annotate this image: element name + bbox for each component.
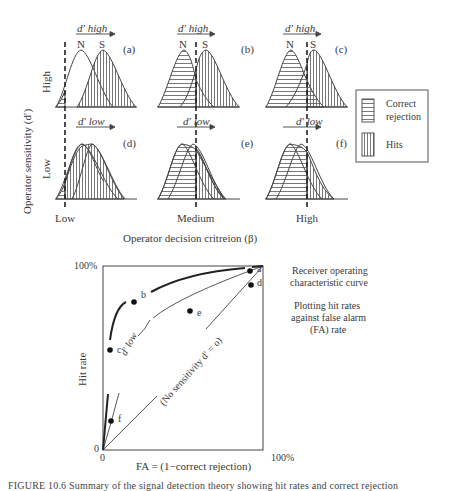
x-tick-0: 0 <box>100 452 105 463</box>
roc-note-line1: Plotting hit rates <box>294 300 360 311</box>
y-tick-100: 100% <box>74 260 97 271</box>
roc-point-label-f: f <box>118 413 121 424</box>
x-tick-100: 100% <box>271 452 294 463</box>
roc-point-label-a: a <box>257 263 261 274</box>
roc-title-line2: characteristic curve <box>290 277 368 288</box>
roc-point-a <box>247 268 253 274</box>
roc-y-axis-label: Hit rate <box>76 353 88 386</box>
roc-point-b <box>131 299 137 305</box>
figure-caption: FIGURE 10.6 Summary of the signal detect… <box>8 480 398 491</box>
roc-point-d <box>248 282 254 288</box>
roc-y-axis-label-text: Hit rate <box>76 353 88 386</box>
roc-point-c <box>107 347 113 353</box>
y-tick-0: 0 <box>94 443 99 454</box>
roc-title-line1: Receiver operating <box>292 265 368 276</box>
roc-point-label-b: b <box>141 289 146 300</box>
roc-point-f <box>108 418 114 424</box>
roc-x-axis-label: FA = (1−correct rejection) <box>136 460 251 472</box>
roc-point-label-e: e <box>197 307 201 318</box>
roc-note-line2: against false alarm <box>291 312 366 323</box>
roc-point-e <box>187 308 193 314</box>
roc-point-label-d: d <box>257 277 262 288</box>
roc-note-line3: (FA) rate <box>310 324 346 335</box>
